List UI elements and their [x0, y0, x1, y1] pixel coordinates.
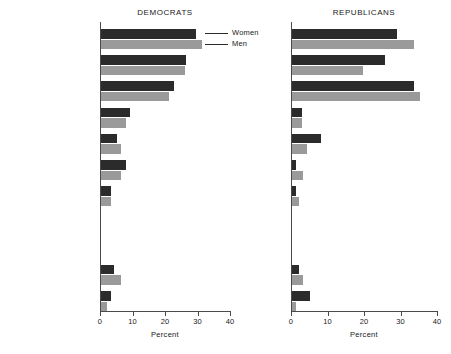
- bar-democrats-women-defense-and-security: [101, 108, 130, 118]
- x-axis-tick: [291, 312, 292, 316]
- bar-democrats-women-civil-and-social-order: [101, 134, 117, 144]
- bar-democrats-men-mens-issues: [101, 275, 121, 285]
- x-axis-tick: [401, 312, 402, 316]
- legend-leader-line-women: [205, 33, 228, 34]
- bar-republicans-men-defense-and-security: [292, 118, 302, 128]
- x-axis-tick: [165, 312, 166, 316]
- bar-democrats-women-mens-issues: [101, 265, 114, 275]
- x-axis-tick-label: 40: [427, 317, 447, 326]
- legend-item-women: Women: [205, 28, 260, 38]
- bar-republicans-men-economy: [292, 40, 414, 50]
- bar-democrats-men-social-welfare: [101, 66, 185, 76]
- x-axis-tick: [437, 312, 438, 316]
- x-axis-tick-label: 10: [123, 317, 143, 326]
- x-axis-tick-label: 30: [391, 317, 411, 326]
- bar-republicans-men-civil-and-social-order: [292, 144, 307, 154]
- bar-republicans-women-taxes-and-spending: [292, 81, 414, 91]
- x-axis-tick: [100, 312, 101, 316]
- bar-republicans-women-civil-and-social-order: [292, 134, 321, 144]
- bar-democrats-women-social-welfare: [101, 55, 186, 65]
- legend-leader-line-men: [205, 44, 228, 45]
- x-axis-tick-label: 0: [281, 317, 301, 326]
- bar-republicans-women-womens-issues: [292, 291, 310, 301]
- panel-title: REPUBLICANS: [304, 8, 424, 17]
- x-axis-tick-label: 20: [354, 317, 374, 326]
- bar-democrats-women-foreign-affairs: [101, 186, 111, 196]
- bar-democrats-men-taxes-and-spending: [101, 92, 169, 102]
- bar-republicans-women-mens-issues: [292, 265, 299, 275]
- bar-republicans-women-foreign-affairs: [292, 186, 296, 196]
- bar-democrats-women-womens-issues: [101, 291, 111, 301]
- bar-republicans-women-economy: [292, 29, 397, 39]
- x-axis-tick-label: 40: [220, 317, 240, 326]
- bar-republicans-men-mens-issues: [292, 275, 303, 285]
- legend-item-men: Men: [205, 39, 260, 49]
- bar-republicans-men-social-welfare: [292, 66, 363, 76]
- bar-democrats-men-defense-and-security: [101, 118, 126, 128]
- x-axis-tick: [328, 312, 329, 316]
- x-axis-tick: [230, 312, 231, 316]
- bar-democrats-women-economy: [101, 29, 196, 39]
- x-axis-tick-label: 20: [155, 317, 175, 326]
- bar-republicans-men-government-functioning: [292, 171, 303, 181]
- x-axis-label: Percent: [319, 330, 409, 339]
- bar-republicans-men-womens-issues: [292, 302, 296, 312]
- bar-democrats-men-foreign-affairs: [101, 197, 111, 207]
- x-axis-tick: [133, 312, 134, 316]
- bar-democrats-men-civil-and-social-order: [101, 144, 121, 154]
- x-axis-label: Percent: [120, 330, 210, 339]
- bar-republicans-women-social-welfare: [292, 55, 385, 65]
- x-axis-tick: [364, 312, 365, 316]
- bar-democrats-men-economy: [101, 40, 202, 50]
- bar-republicans-women-defense-and-security: [292, 108, 302, 118]
- bar-democrats-men-womens-issues: [101, 302, 107, 312]
- bar-democrats-women-taxes-and-spending: [101, 81, 174, 91]
- x-axis-tick-label: 30: [188, 317, 208, 326]
- bar-democrats-men-government-functioning: [101, 171, 121, 181]
- bar-republicans-men-foreign-affairs: [292, 197, 299, 207]
- bar-republicans-men-taxes-and-spending: [292, 92, 420, 102]
- legend-label-men: Men: [232, 39, 247, 49]
- chart-figure: DEMOCRATS010203040PercentEconomySocial w…: [0, 0, 451, 354]
- x-axis-tick-label: 0: [90, 317, 110, 326]
- x-axis-tick: [198, 312, 199, 316]
- bar-democrats-women-government-functioning: [101, 160, 126, 170]
- x-axis-tick-label: 10: [318, 317, 338, 326]
- bar-republicans-women-government-functioning: [292, 160, 296, 170]
- legend-label-women: Women: [232, 28, 259, 38]
- panel-title: DEMOCRATS: [105, 8, 225, 17]
